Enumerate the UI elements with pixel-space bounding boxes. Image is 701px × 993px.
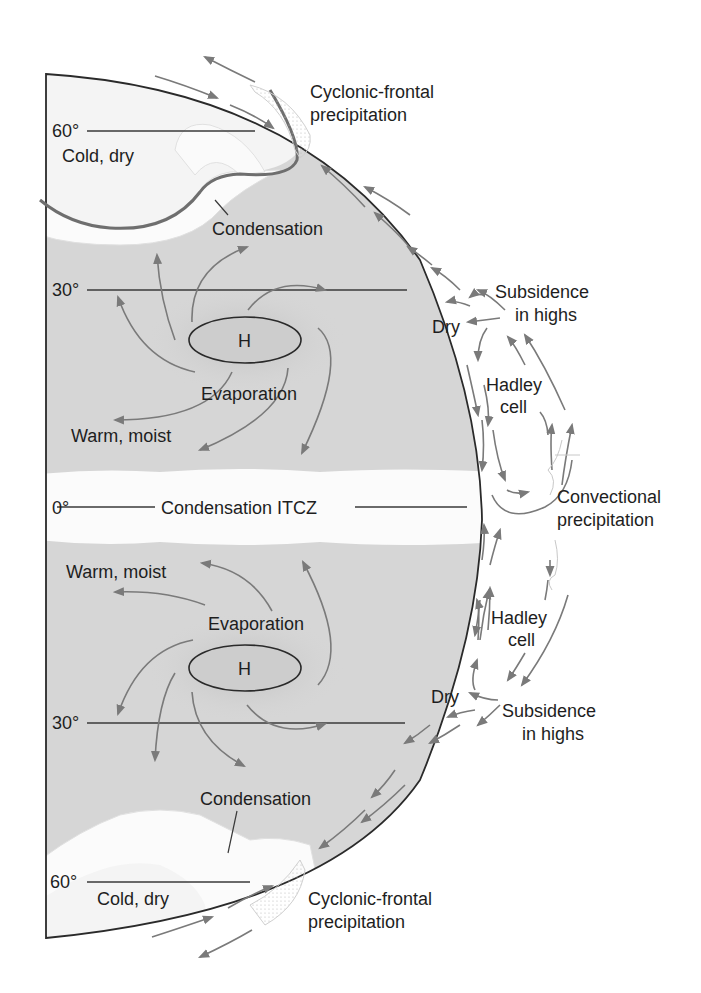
label-south-dry: Dry [431, 687, 459, 707]
label-north-dry: Dry [432, 317, 460, 337]
label-south-subsidence-1: Subsidence [502, 701, 596, 721]
label-south-front-2: precipitation [308, 912, 405, 932]
label-south-h: H [238, 659, 251, 679]
label-south-60: 60° [50, 872, 77, 892]
label-north-30: 30° [52, 280, 79, 300]
label-convection-1: Convectional [557, 487, 661, 507]
label-south-hadley-2: cell [508, 630, 535, 650]
label-north-subsidence-2: in highs [515, 305, 577, 325]
label-north-cold-dry: Cold, dry [62, 146, 134, 166]
label-south-condensation: Condensation [200, 789, 311, 809]
label-north-front-1: Cyclonic-frontal [310, 82, 434, 102]
label-south-cold-dry: Cold, dry [97, 889, 169, 909]
label-north-condensation: Condensation [212, 219, 323, 239]
label-north-60: 60° [52, 121, 79, 141]
label-south-warm-moist: Warm, moist [66, 562, 166, 582]
label-south-hadley-1: Hadley [491, 608, 547, 628]
label-north-hadley-1: Hadley [486, 375, 542, 395]
label-north-h: H [238, 331, 251, 351]
label-north-subsidence-1: Subsidence [495, 282, 589, 302]
label-south-front-1: Cyclonic-frontal [308, 889, 432, 909]
circulation-diagram: 60° Cold, dry Cyclonic-frontal precipita… [0, 0, 701, 993]
label-north-front-2: precipitation [310, 105, 407, 125]
label-north-hadley-2: cell [500, 397, 527, 417]
label-north-warm-moist: Warm, moist [71, 426, 171, 446]
label-south-evaporation: Evaporation [208, 614, 304, 634]
label-north-evaporation: Evaporation [201, 384, 297, 404]
label-convection-2: precipitation [557, 510, 654, 530]
label-south-subsidence-2: in highs [522, 724, 584, 744]
label-itcz: Condensation ITCZ [161, 498, 317, 518]
label-equator: 0° [52, 498, 69, 518]
label-south-30: 30° [52, 713, 79, 733]
